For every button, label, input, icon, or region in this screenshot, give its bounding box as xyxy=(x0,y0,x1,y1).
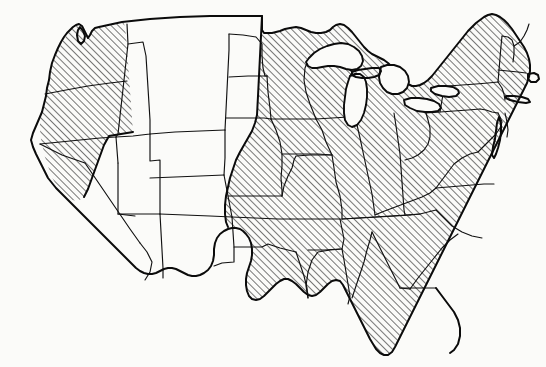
us-map-svg xyxy=(0,0,546,367)
map-figure xyxy=(0,0,546,367)
